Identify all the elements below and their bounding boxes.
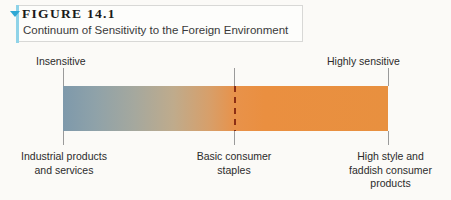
tick-left-bottom bbox=[63, 131, 64, 145]
category-label-left: Industrial products and services bbox=[0, 150, 128, 177]
figure-container: FIGURE 14.1 Continuum of Sensitivity to … bbox=[0, 0, 451, 200]
tick-right-bottom bbox=[388, 131, 389, 145]
tick-right-top bbox=[388, 68, 389, 86]
figure-number: FIGURE 14.1 bbox=[22, 6, 116, 22]
tick-left-top bbox=[63, 68, 64, 86]
category-label-right: High style and faddish consumer products bbox=[330, 150, 451, 191]
midpoint-dashed-divider bbox=[234, 86, 236, 131]
triangle-down-icon bbox=[10, 11, 20, 17]
scale-left-label: Insensitive bbox=[36, 55, 86, 68]
tick-middle-top bbox=[234, 68, 235, 86]
sensitivity-gradient-bar bbox=[63, 86, 388, 131]
scale-right-label: Highly sensitive bbox=[327, 55, 400, 68]
tick-middle-bottom bbox=[234, 131, 235, 145]
figure-title: Continuum of Sensitivity to the Foreign … bbox=[23, 24, 288, 36]
category-label-middle: Basic consumer staples bbox=[174, 150, 294, 177]
